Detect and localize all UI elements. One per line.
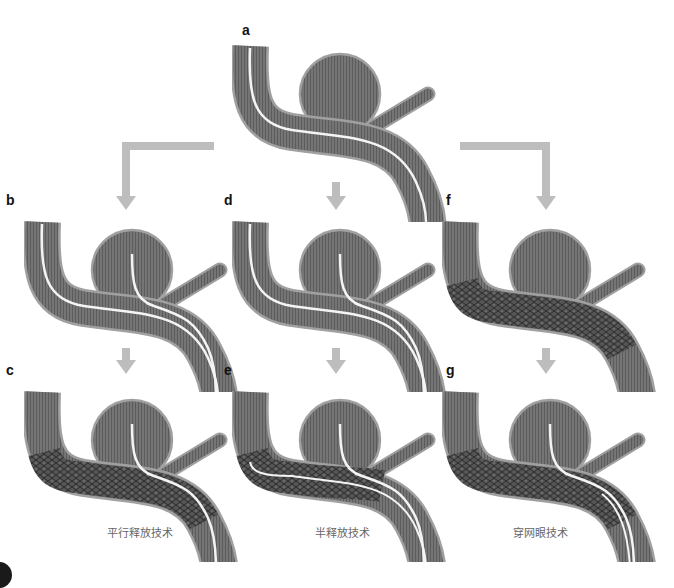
panel-label-b: b bbox=[6, 192, 15, 208]
arrow-a-to-b-vertical bbox=[122, 142, 130, 198]
caption-trans-cell-technique: 穿网眼技术 bbox=[460, 524, 620, 540]
panel-e: e 半释放技术 bbox=[232, 362, 452, 562]
panel-g: g 穿网眼技术 bbox=[442, 362, 662, 562]
caption-parallel-technique: 平行释放技术 bbox=[60, 524, 220, 540]
panel-c: c 平行释放技术 bbox=[24, 362, 244, 562]
panel-label-c: c bbox=[6, 362, 14, 378]
arrow-a-to-f-vertical bbox=[542, 142, 550, 198]
arrow-a-to-b-horizontal bbox=[122, 142, 214, 150]
panel-label-e: e bbox=[224, 362, 232, 378]
arrow-a-to-f-horizontal bbox=[460, 142, 550, 150]
caption-semi-jailing-technique: 半释放技术 bbox=[262, 524, 422, 540]
